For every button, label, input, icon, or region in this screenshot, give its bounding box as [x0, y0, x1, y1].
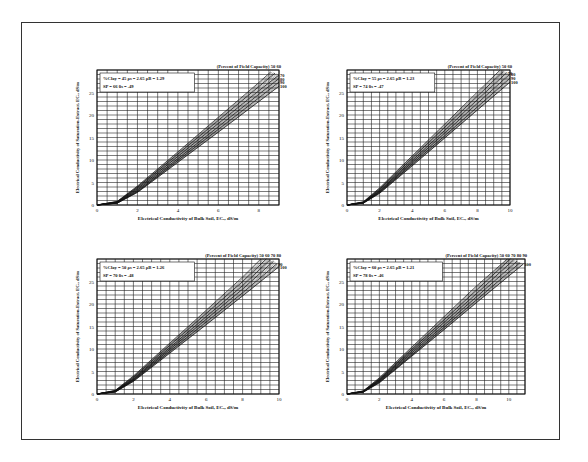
x-tick-label: 4 — [410, 397, 413, 402]
y-tick-label: 10 — [339, 347, 345, 352]
x-tick-label: 10 — [506, 397, 512, 402]
y-tick-label: 25 — [339, 280, 345, 285]
y-tick-label: 5 — [342, 370, 345, 375]
curve-header-label: (Percent of Field Capacity) 50 60 70 80 … — [445, 253, 527, 258]
y-tick-label: 15 — [339, 325, 345, 330]
params-line-1: %Clay = 60 ρs = 2.65 ρB = 1.21 — [353, 265, 415, 270]
x-tick-label: 6 — [443, 397, 446, 402]
y-axis-label: Electrical Conductivity of Saturation-Ex… — [325, 271, 330, 382]
params-line-2: SP = 78 θs = .46 — [353, 273, 384, 278]
x-axis-label: Electrical Conductivity of Bulk Soil, EC… — [386, 405, 487, 410]
y-tick-label: 20 — [339, 302, 345, 307]
chart-panel-bottom-right: 02468100510152025Electrical Conductivity… — [0, 0, 588, 462]
y-tick-label: 0 — [342, 392, 345, 397]
series-label-100: 100 — [524, 262, 531, 267]
plot-area: 02468100510152025Electrical Conductivity… — [325, 253, 532, 410]
x-tick-label: 8 — [475, 397, 478, 402]
x-tick-label: 2 — [378, 397, 381, 402]
x-tick-label: 0 — [346, 397, 349, 402]
